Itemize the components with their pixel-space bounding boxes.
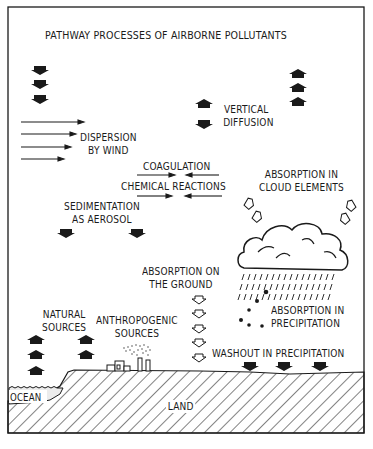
precipitation-absorption-line-1: ABSORPTION IN [271, 304, 344, 317]
diagram-canvas [0, 0, 373, 449]
sedimentation-label: SEDIMENTATION AS AEROSOL [64, 200, 140, 226]
dispersion-label: DISPERSION BY WIND [80, 131, 137, 157]
cloud-absorption-line-1: ABSORPTION IN [259, 168, 344, 181]
ocean-label: OCEAN [10, 391, 41, 404]
diagram-frame [8, 7, 364, 433]
precipitation-absorption-line-2: PRECIPITATION [271, 317, 344, 330]
vertical-diffusion-label: VERTICAL DIFFUSION [224, 103, 274, 129]
precipitation-absorption-label: ABSORPTION IN PRECIPITATION [271, 304, 344, 330]
rain-cloud-icon [238, 224, 348, 300]
ground-absorption-label: ABSORPTION ON THE GROUND [142, 265, 220, 291]
ground-absorption-line-1: ABSORPTION ON [142, 265, 220, 278]
descending-arrows-left [31, 66, 49, 104]
dispersion-line-2: BY WIND [80, 144, 137, 157]
ground-absorption-line-2: THE GROUND [142, 278, 220, 291]
anthropogenic-sources-line-2: SOURCES [96, 327, 178, 340]
sedimentation-arrows [57, 229, 146, 238]
cloud-absorption-label: ABSORPTION IN CLOUD ELEMENTS [259, 168, 344, 194]
natural-sources-line-1: NATURAL [42, 308, 86, 321]
anthropogenic-sources-label: ANTHROPOGENIC SOURCES [96, 314, 178, 340]
washout-label: WASHOUT IN PRECIPITATION [212, 347, 344, 360]
coagulation-label: COAGULATION [143, 160, 211, 173]
factory-icon [107, 358, 150, 371]
wind-arrows [21, 120, 84, 161]
sedimentation-line-1: SEDIMENTATION [64, 200, 140, 213]
anthropogenic-sources-line-1: ANTHROPOGENIC [96, 314, 178, 327]
natural-sources-line-2: SOURCES [42, 321, 86, 334]
ascending-arrows-right [289, 69, 307, 106]
dispersion-line-1: DISPERSION [80, 131, 137, 144]
natural-source-arrows [27, 335, 95, 375]
vertical-diffusion-line-1: VERTICAL [224, 103, 274, 116]
ground-absorption-arrows [192, 296, 206, 362]
washout-arrows [241, 362, 329, 371]
vertical-diffusion-arrows [195, 99, 213, 129]
sedimentation-line-2: AS AEROSOL [64, 213, 140, 226]
natural-sources-label: NATURAL SOURCES [42, 308, 86, 334]
land-label: LAND [166, 400, 195, 413]
diagram-title: PATHWAY PROCESSES OF AIRBORNE POLLUTANTS [45, 29, 287, 42]
cloud-absorption-line-2: CLOUD ELEMENTS [259, 181, 344, 194]
cloud-absorption-arrows [242, 197, 358, 226]
pollutant-pathway-diagram: PATHWAY PROCESSES OF AIRBORNE POLLUTANTS… [0, 0, 373, 449]
chemical-reactions-label: CHEMICAL REACTIONS [121, 180, 226, 193]
smoke-particles [123, 344, 151, 356]
vertical-diffusion-line-2: DIFFUSION [223, 116, 273, 129]
